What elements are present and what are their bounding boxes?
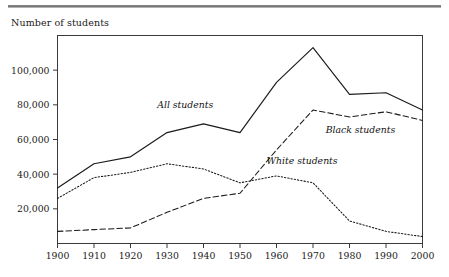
- x-axis-tick-label: 1940: [192, 250, 216, 261]
- x-axis-tick-label: 1970: [301, 250, 325, 261]
- x-axis-tick-label: 2000: [411, 250, 435, 261]
- x-axis-tick-label: 1950: [228, 250, 252, 261]
- y-axis-tick-label: 60,000: [17, 134, 50, 145]
- plot-area: 20,00040,00060,00080,000100,000190019101…: [0, 0, 449, 277]
- y-axis-tick-label: 80,000: [17, 99, 50, 110]
- plot-frame: [58, 36, 423, 244]
- x-axis-tick-label: 1900: [46, 250, 70, 261]
- y-axis-tick-label: 100,000: [11, 65, 50, 76]
- x-axis-tick-label: 1920: [119, 250, 143, 261]
- x-axis-tick-label: 1910: [82, 250, 106, 261]
- series-line-white-students: [58, 164, 423, 237]
- series-label-all-students: All students: [156, 99, 213, 110]
- x-axis-tick-label: 1930: [155, 250, 179, 261]
- y-axis-tick-label: 20,000: [17, 203, 50, 214]
- series-label-black-students: Black students: [325, 124, 396, 135]
- series-label-white-students: White students: [266, 155, 337, 166]
- series-line-all-students: [58, 48, 423, 188]
- x-axis-tick-label: 1990: [374, 250, 398, 261]
- chart-page: Number of students 20,00040,00060,00080,…: [0, 0, 449, 277]
- y-axis-tick-label: 40,000: [17, 169, 50, 180]
- x-axis-tick-label: 1980: [338, 250, 362, 261]
- x-axis-tick-label: 1960: [265, 250, 289, 261]
- line-chart: 20,00040,00060,00080,000100,000190019101…: [0, 0, 449, 277]
